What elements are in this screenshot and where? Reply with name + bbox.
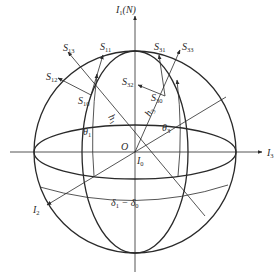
- theta3-label: θ3: [162, 122, 170, 134]
- s32-label: S32: [122, 76, 134, 88]
- h1-label: h1: [106, 112, 121, 126]
- i0-label: I0: [136, 155, 144, 167]
- i3-axis-label: I3: [266, 147, 274, 159]
- i2-axis-label: I2: [32, 204, 40, 216]
- s31-label: S31: [154, 41, 166, 53]
- s33-label: S33: [182, 41, 194, 53]
- s12-vector: [58, 78, 91, 95]
- s11-label: S11: [100, 41, 111, 53]
- delta-label: δ1 − δ0: [111, 197, 139, 209]
- s10-label: S10: [78, 95, 90, 107]
- s12-label: S12: [46, 71, 58, 83]
- i1-axis-label: I1(N): [115, 4, 137, 16]
- s13-label: S13: [63, 42, 75, 54]
- sphere-diagram: I1(N) I3 I2 I0 O S13 S11 S12 S10 S31 S33…: [0, 0, 280, 276]
- origin-label: O: [121, 141, 128, 152]
- i2-axis: [47, 97, 226, 205]
